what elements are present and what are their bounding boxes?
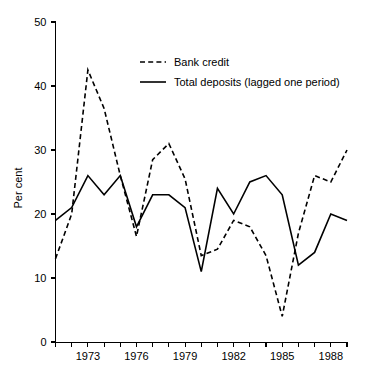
line-chart: 01020304050 Per cent 1973197619791982198… <box>0 0 376 378</box>
legend-label-1[interactable]: Bank credit <box>174 56 229 68</box>
y-tick-label: 30 <box>34 144 46 156</box>
y-tick-label: 50 <box>34 16 46 28</box>
chart-container: 01020304050 Per cent 1973197619791982198… <box>0 0 376 378</box>
y-tick-label: 40 <box>34 80 46 92</box>
x-tick-label: 1973 <box>76 350 100 362</box>
x-tick-label: 1982 <box>221 350 245 362</box>
y-tick-label: 10 <box>34 272 46 284</box>
x-tick-label: 1988 <box>319 350 343 362</box>
x-tick-label: 1979 <box>173 350 197 362</box>
x-tick-label: 1985 <box>270 350 294 362</box>
legend-label-2[interactable]: Total deposits (lagged one period) <box>174 76 340 88</box>
y-axis-title: Per cent <box>12 168 24 209</box>
y-tick-label: 20 <box>34 208 46 220</box>
x-tick-label: 1976 <box>124 350 148 362</box>
y-tick-label: 0 <box>40 336 46 348</box>
